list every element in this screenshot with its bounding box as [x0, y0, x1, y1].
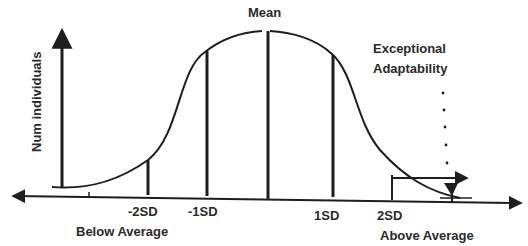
mean-label: Mean: [248, 5, 281, 20]
bell-curve-diagram: Num individuals Mean -2SD -1SD 1SD 2SD B…: [0, 0, 528, 246]
dotted-pointer: [442, 92, 449, 165]
label-plus-1sd: 1SD: [314, 208, 339, 223]
above-average-label: Above Average: [380, 228, 474, 243]
y-axis-label: Num individuals: [29, 52, 44, 152]
label-minus-2sd: -2SD: [128, 204, 158, 219]
adaptability-label: Adaptability: [373, 61, 448, 76]
label-plus-2sd: 2SD: [377, 208, 402, 223]
label-minus-1sd: -1SD: [188, 204, 218, 219]
bell-curve: [52, 31, 460, 198]
exceptional-label: Exceptional: [373, 41, 446, 56]
below-average-label: Below Average: [76, 224, 168, 239]
